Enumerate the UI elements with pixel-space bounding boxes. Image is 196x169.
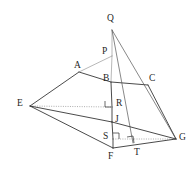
edge-E-J (30, 106, 112, 122)
edge-Q-G (112, 30, 176, 139)
geometry-figure: Q P A B C E R J S G T F (0, 0, 196, 169)
point-label-T: T (134, 148, 140, 158)
edge-F-G (113, 139, 176, 148)
edge-Q-T (112, 30, 133, 143)
point-label-S: S (103, 132, 108, 142)
point-label-E: E (17, 99, 23, 109)
edge-E-A (30, 72, 79, 106)
edge-C-G (148, 85, 176, 139)
point-label-A: A (74, 61, 81, 71)
point-label-G: G (179, 133, 186, 143)
point-label-P: P (102, 47, 107, 57)
point-label-C: C (149, 74, 155, 84)
edge-E-R (30, 106, 112, 107)
figure-canvas (0, 0, 196, 169)
point-label-Q: Q (107, 14, 114, 24)
right-angle-R (105, 101, 111, 107)
edge-A-P (79, 56, 112, 72)
point-label-J: J (115, 115, 119, 125)
edge-B-R (111, 82, 112, 107)
edge-J-S (112, 122, 113, 139)
point-label-B: B (103, 74, 109, 84)
edge-J-G (112, 122, 176, 139)
edge-P-B (111, 56, 112, 82)
right-angle-S (113, 133, 119, 139)
edge-E-F (30, 106, 113, 148)
point-label-R: R (116, 99, 122, 109)
point-label-F: F (108, 152, 113, 162)
